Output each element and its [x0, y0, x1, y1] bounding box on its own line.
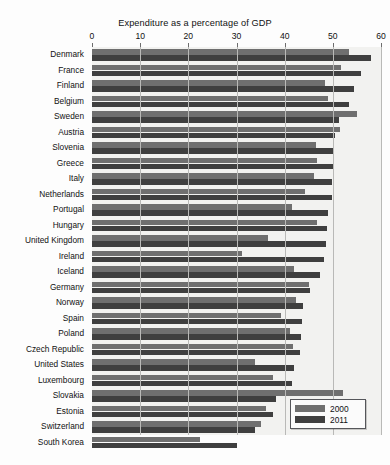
chart-page: Expenditure as a percentage of GDP 01020…: [0, 0, 390, 465]
x-tick-mark-60: [381, 43, 382, 47]
y-label-belgium: Belgium: [0, 94, 88, 110]
x-tick-label-20: 20: [184, 31, 194, 41]
x-tick-label-30: 30: [232, 31, 242, 41]
x-tick-label-50: 50: [328, 31, 338, 41]
y-label-germany: Germany: [0, 280, 88, 296]
bar-2000-austria: [92, 127, 340, 133]
x-tick-mark-30: [237, 43, 238, 47]
bar-2000-belgium: [92, 96, 328, 102]
bar-2011-italy: [92, 179, 332, 185]
bar-2000-slovakia: [92, 390, 343, 396]
y-label-hungary: Hungary: [0, 218, 88, 234]
x-axis-tick-labels: 0102030405060: [0, 31, 390, 43]
y-label-estonia: Estonia: [0, 404, 88, 420]
gridline-20: [188, 47, 189, 435]
y-label-denmark: Denmark: [0, 47, 88, 63]
y-label-slovakia: Slovakia: [0, 388, 88, 404]
y-label-czech-republic: Czech Republic: [0, 342, 88, 358]
bar-2000-spain: [92, 313, 281, 319]
x-tick-mark-50: [333, 43, 334, 47]
y-label-greece: Greece: [0, 156, 88, 172]
plot-area: [92, 47, 381, 435]
y-label-portugal: Portugal: [0, 202, 88, 218]
gridline-30: [237, 47, 238, 435]
x-tick-label-10: 10: [135, 31, 145, 41]
bar-2000-italy: [92, 173, 314, 179]
legend-item-2011: 2011: [295, 414, 361, 425]
bar-2011-belgium: [92, 102, 349, 108]
y-label-united-kingdom: United Kingdom: [0, 233, 88, 249]
y-label-ireland: Ireland: [0, 249, 88, 265]
y-label-south-korea: South Korea: [0, 435, 88, 451]
page-title: Expenditure as a percentage of GDP: [0, 18, 390, 28]
legend-label-2011: 2011: [330, 415, 348, 425]
bar-2011-switzerland: [92, 427, 255, 433]
bar-2000-poland: [92, 328, 290, 334]
y-label-iceland: Iceland: [0, 264, 88, 280]
bar-2011-united-states: [92, 365, 294, 371]
x-tick-label-40: 40: [280, 31, 290, 41]
x-tick-mark-0: [92, 43, 93, 47]
y-label-austria: Austria: [0, 125, 88, 141]
gridline-40: [285, 47, 286, 435]
bar-2011-ireland: [92, 257, 324, 263]
legend-label-2000: 2000: [330, 404, 349, 414]
y-label-slovenia: Slovenia: [0, 140, 88, 156]
bar-2011-austria: [92, 133, 335, 139]
legend-item-2000: 2000: [295, 403, 361, 414]
y-label-switzerland: Switzerland: [0, 419, 88, 435]
y-axis-category-labels: DenmarkFranceFinlandBelgiumSwedenAustria…: [0, 47, 88, 435]
bar-2000-sweden: [92, 111, 357, 117]
x-tick-mark-40: [285, 43, 286, 47]
bar-2000-finland: [92, 80, 325, 86]
bar-2011-netherlands: [92, 195, 332, 201]
bar-2000-germany: [92, 282, 309, 288]
bar-2011-slovakia: [92, 396, 276, 402]
y-label-france: France: [0, 63, 88, 79]
bar-2000-denmark: [92, 49, 349, 55]
bar-2000-norway: [92, 297, 296, 303]
y-label-finland: Finland: [0, 78, 88, 94]
bar-2011-norway: [92, 303, 303, 309]
bar-2011-poland: [92, 334, 301, 340]
bar-2000-united-kingdom: [92, 235, 268, 241]
bar-2000-south-korea: [92, 437, 200, 443]
bar-2000-ireland: [92, 251, 242, 257]
y-label-netherlands: Netherlands: [0, 187, 88, 203]
bar-2011-estonia: [92, 412, 273, 418]
bar-2000-portugal: [92, 204, 292, 210]
gridline-60: [381, 47, 382, 435]
bar-2011-united-kingdom: [92, 241, 326, 247]
bar-2000-hungary: [92, 220, 317, 226]
bar-2011-luxembourg: [92, 381, 292, 387]
bar-2011-south-korea: [92, 443, 237, 449]
x-tick-mark-10: [140, 43, 141, 47]
bar-2011-france: [92, 71, 361, 77]
bar-2011-czech-republic: [92, 350, 300, 356]
bar-2011-denmark: [92, 55, 371, 61]
bar-2000-iceland: [92, 266, 294, 272]
bar-2000-greece: [92, 158, 317, 164]
bar-2000-czech-republic: [92, 344, 293, 350]
bar-2000-united-states: [92, 359, 255, 365]
bar-2000-slovenia: [92, 142, 316, 148]
bar-2011-portugal: [92, 210, 328, 216]
y-label-norway: Norway: [0, 295, 88, 311]
bar-2000-netherlands: [92, 189, 305, 195]
gridline-10: [140, 47, 141, 435]
x-tick-mark-20: [188, 43, 189, 47]
bar-2000-luxembourg: [92, 375, 273, 381]
bar-2000-estonia: [92, 406, 266, 412]
bar-2011-finland: [92, 86, 354, 92]
bar-row: [92, 435, 381, 451]
y-label-united-states: United States: [0, 357, 88, 373]
bar-2000-france: [92, 65, 341, 71]
chart-legend: 20002011: [290, 399, 366, 429]
x-tick-label-60: 60: [376, 31, 386, 41]
gridline-50: [333, 47, 334, 435]
y-label-luxembourg: Luxembourg: [0, 373, 88, 389]
legend-swatch-2000: [295, 405, 325, 412]
x-tick-label-0: 0: [90, 31, 95, 41]
bar-2011-germany: [92, 288, 310, 294]
bar-2011-greece: [92, 164, 333, 170]
